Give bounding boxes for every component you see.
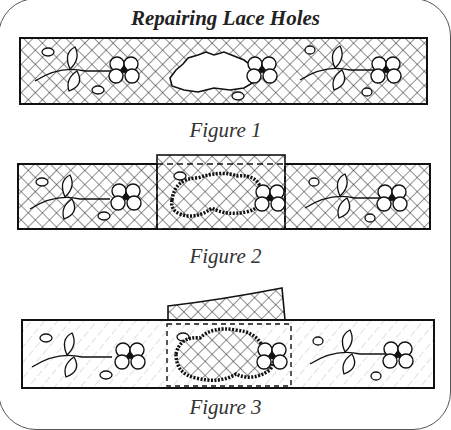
figure-2-illustration <box>18 155 430 229</box>
figure-3-caption: Figure 3 <box>0 395 451 420</box>
figure-3-illustration <box>22 288 434 388</box>
figure-2-caption: Figure 2 <box>0 244 451 269</box>
figure-1-caption: Figure 1 <box>0 118 451 143</box>
lace-illustration <box>0 0 451 430</box>
figure-1-illustration <box>20 38 427 104</box>
